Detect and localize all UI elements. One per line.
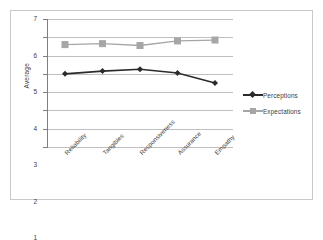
y-axis-tick-label: 4 xyxy=(33,125,37,132)
y-axis-tick-label: 2 xyxy=(33,199,37,206)
data-point-expectations-1 xyxy=(100,41,106,47)
series-layer xyxy=(47,19,233,147)
legend-label: Expectations xyxy=(263,108,301,115)
legend-label: Perceptions xyxy=(263,92,298,99)
data-point-perceptions-2 xyxy=(137,66,143,72)
data-point-expectations-3 xyxy=(175,38,181,44)
x-axis-labels: ReliabilityTangiblesResponsivenessAssura… xyxy=(47,151,247,201)
legend-item-expectations[interactable]: Expectations xyxy=(243,103,313,119)
data-point-perceptions-1 xyxy=(100,68,106,74)
y-axis-tick-label: 6 xyxy=(33,52,37,59)
data-point-perceptions-0 xyxy=(62,71,68,77)
legend-swatch-square-icon xyxy=(243,106,263,116)
legend-item-perceptions[interactable]: Perceptions xyxy=(243,87,313,103)
data-point-perceptions-4 xyxy=(212,80,218,86)
legend-swatch-diamond-icon xyxy=(243,90,263,100)
chart-frame: Average 01234567 ReliabilityTangiblesRes… xyxy=(10,10,313,200)
data-point-expectations-0 xyxy=(62,42,68,48)
y-axis-tick-label: 7 xyxy=(33,16,37,23)
y-axis-tick-label: 5 xyxy=(33,89,37,96)
chart-legend: PerceptionsExpectations xyxy=(243,87,313,119)
y-axis-title: Average xyxy=(23,63,30,89)
y-axis-tick-label: 3 xyxy=(33,162,37,169)
plot-area: 01234567 xyxy=(47,19,233,147)
data-point-perceptions-3 xyxy=(175,70,181,76)
data-point-expectations-2 xyxy=(137,43,143,49)
data-point-expectations-4 xyxy=(212,37,218,43)
